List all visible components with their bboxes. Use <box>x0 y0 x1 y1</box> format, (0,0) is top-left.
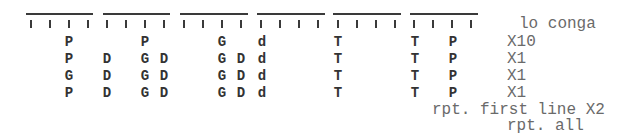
stroke-symbol: D <box>103 69 111 83</box>
stroke-symbol: G <box>218 69 226 83</box>
beat-tick <box>125 20 127 28</box>
stroke-symbol: P <box>65 86 73 100</box>
beat-tick <box>432 20 434 28</box>
repeat-count-row-4: X1 <box>507 85 526 101</box>
measure-bar-line <box>257 13 325 15</box>
beat-tick <box>451 20 453 28</box>
beat-tick <box>202 20 204 28</box>
stroke-symbol: G <box>65 69 73 83</box>
stroke-symbol: d <box>258 86 266 100</box>
measure-bar-line <box>410 13 478 15</box>
beat-tick <box>337 20 339 28</box>
instrument-label: lo conga <box>519 16 596 32</box>
stroke-symbol: T <box>334 69 342 83</box>
stroke-symbol: T <box>411 35 419 49</box>
stroke-symbol: P <box>449 52 457 66</box>
stroke-symbol: G <box>141 86 149 100</box>
repeat-first-line-note: rpt. first line X2 <box>432 102 605 118</box>
stroke-symbol: T <box>411 52 419 66</box>
beat-tick <box>413 20 415 28</box>
stroke-symbol: P <box>449 86 457 100</box>
stroke-symbol: d <box>258 35 266 49</box>
measure-bar-line <box>103 13 170 15</box>
stroke-symbol: G <box>218 52 226 66</box>
beat-tick <box>279 20 281 28</box>
stroke-symbol: D <box>160 52 168 66</box>
beat-tick <box>49 20 51 28</box>
beat-tick <box>470 20 472 28</box>
stroke-symbol: P <box>65 52 73 66</box>
conga-notation: PPGdTTPPDGDGDdTTPGDGDGDdTTPPDGDGDdTTP lo… <box>0 0 623 135</box>
beat-tick <box>163 20 165 28</box>
beat-tick <box>221 20 223 28</box>
measure-bar-line <box>333 13 401 15</box>
stroke-symbol: T <box>411 69 419 83</box>
beat-tick <box>68 20 70 28</box>
stroke-symbol: D <box>237 52 245 66</box>
stroke-symbol: P <box>65 35 73 49</box>
stroke-symbol: G <box>218 86 226 100</box>
stroke-symbol: D <box>237 86 245 100</box>
stroke-symbol: P <box>449 69 457 83</box>
repeat-count-row-1: X10 <box>507 34 536 50</box>
beat-tick <box>144 20 146 28</box>
stroke-symbol: D <box>160 86 168 100</box>
stroke-symbol: G <box>218 35 226 49</box>
beat-tick <box>356 20 358 28</box>
stroke-symbol: D <box>103 86 111 100</box>
beat-tick <box>87 20 89 28</box>
repeat-count-row-3: X1 <box>507 68 526 84</box>
stroke-symbol: G <box>141 52 149 66</box>
beat-tick <box>375 20 377 28</box>
stroke-symbol: d <box>258 52 266 66</box>
beat-tick <box>30 20 32 28</box>
stroke-symbol: G <box>141 69 149 83</box>
measure-bar-line <box>26 13 93 15</box>
stroke-symbol: T <box>334 52 342 66</box>
measure-bar-line <box>180 13 248 15</box>
stroke-symbol: d <box>258 69 266 83</box>
beat-tick <box>317 20 319 28</box>
beat-tick <box>240 20 242 28</box>
beat-tick <box>298 20 300 28</box>
beat-tick <box>394 20 396 28</box>
stroke-symbol: T <box>334 35 342 49</box>
stroke-symbol: D <box>160 69 168 83</box>
stroke-symbol: T <box>411 86 419 100</box>
beat-tick <box>106 20 108 28</box>
repeat-all-note: rpt. all <box>507 118 584 134</box>
repeat-count-row-2: X1 <box>507 51 526 67</box>
beat-tick <box>183 20 185 28</box>
stroke-symbol: T <box>334 86 342 100</box>
stroke-symbol: P <box>141 35 149 49</box>
stroke-symbol: D <box>237 69 245 83</box>
stroke-symbol: D <box>103 52 111 66</box>
stroke-symbol: P <box>449 35 457 49</box>
beat-tick <box>260 20 262 28</box>
